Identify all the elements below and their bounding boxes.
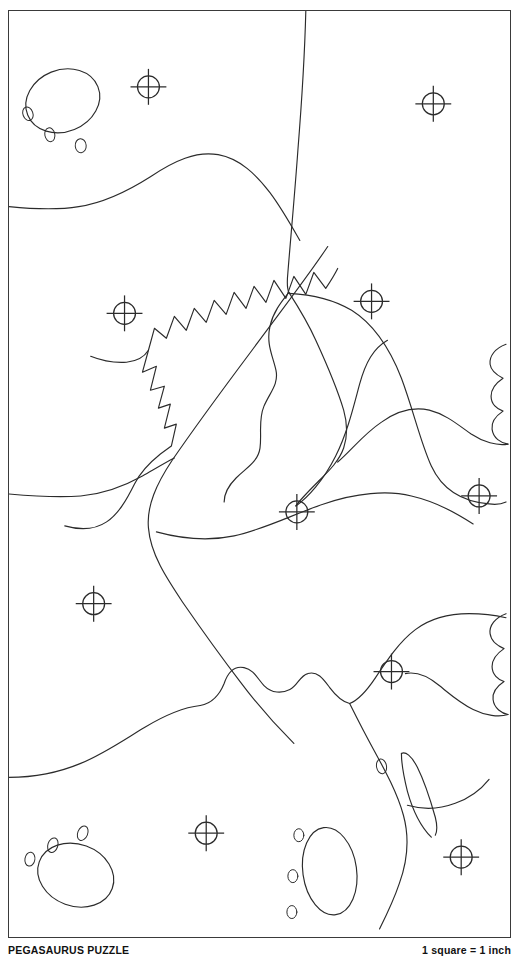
pattern-title: PEGASAURUS PUZZLE	[8, 944, 129, 956]
paw-prints-layer	[16, 58, 362, 919]
pattern-artwork	[9, 11, 510, 937]
creature-line-art	[9, 11, 508, 929]
paw-toe	[46, 837, 60, 854]
spiked-back-ridge	[91, 268, 338, 362]
spiked-back-ridge-lower	[65, 350, 177, 528]
paw-toe	[294, 829, 304, 842]
caption-row: PEGASAURUS PUZZLE 1 square = 1 inch	[8, 944, 511, 958]
crosshair-target-icon	[461, 478, 497, 514]
scale-note: 1 square = 1 inch	[422, 944, 511, 956]
jaw-bottom-sweep	[407, 779, 489, 808]
left-lower-contour	[9, 706, 200, 778]
snout-upper-sweep	[350, 614, 506, 704]
paw-toe	[21, 106, 35, 123]
crosshair-target-icon	[107, 295, 143, 331]
neck-second-contour	[289, 292, 347, 506]
crosshair-target-icon	[415, 86, 451, 122]
paw-print-paw-bottom-left	[24, 824, 123, 917]
pattern-drawing-frame	[8, 10, 511, 938]
body-underside-curve	[156, 493, 473, 539]
paw-toe	[44, 127, 57, 143]
paw-toe	[288, 870, 298, 883]
paw-toe	[75, 138, 87, 153]
paw-print-paw-bottom-right	[287, 824, 363, 919]
neck-inner-wave	[224, 292, 289, 502]
scalloped-foot-upper-right	[490, 344, 508, 444]
creature-horn-outer	[401, 753, 436, 835]
paw-pad	[297, 824, 362, 918]
body-main-diagonal	[148, 246, 328, 743]
paw-pad	[16, 58, 109, 144]
snout-lower-contour	[350, 704, 407, 930]
paw-print-paw-top-left	[16, 58, 109, 153]
paw-toe	[287, 906, 297, 919]
crosshair-target-icon	[76, 586, 112, 622]
crosshair-target-icon	[279, 494, 315, 530]
crosshair-target-icon	[443, 839, 479, 875]
paw-toe	[75, 824, 90, 842]
lower-middle-wavy-join	[200, 667, 349, 705]
head-crest-inner-edge	[296, 340, 388, 506]
crosshair-target-icon	[354, 283, 390, 319]
crosshair-target-icon	[188, 815, 224, 851]
scalloped-foot-lower-right	[490, 614, 508, 715]
pattern-sheet-page: PEGASAURUS PUZZLE 1 square = 1 inch	[0, 0, 519, 958]
upper-right-foot-lower-edge	[338, 409, 508, 462]
lower-right-foot-lower-edge	[405, 673, 508, 716]
crosshair-target-icon	[374, 654, 410, 690]
head-crest-sweep	[289, 293, 506, 504]
upper-left-contour	[9, 154, 300, 241]
paw-toe	[24, 851, 36, 866]
crosshair-target-icon	[131, 69, 167, 105]
neck-outer-contour	[287, 11, 306, 292]
paw-pad	[29, 833, 123, 918]
